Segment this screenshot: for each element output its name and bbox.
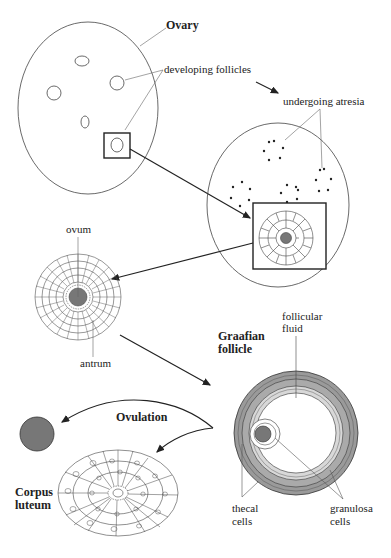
antral-follicle: [35, 237, 121, 357]
label-ovum: ovum: [66, 223, 92, 235]
primary-follicle: [259, 211, 313, 265]
graafian-ovum: [255, 426, 271, 442]
ovary-outline: [18, 22, 158, 194]
selected-follicle-box: [104, 133, 130, 158]
label-follicular-fluid-1: follicular: [282, 310, 323, 322]
label-corpus-2: luteum: [15, 498, 51, 512]
label-thecal-2: cells: [232, 515, 252, 527]
label-granulosa-1: granulosa: [330, 502, 373, 514]
arrow-to-antral-follicle: [112, 243, 253, 279]
label-thecal-1: thecal: [232, 502, 258, 514]
label-ovulation: Ovulation: [116, 410, 168, 424]
cumulus: [250, 419, 280, 449]
follicle-small-1: [75, 56, 89, 66]
label-corpus-1: Corpus: [15, 485, 53, 499]
arrow-to-corpus-luteum: [157, 428, 213, 452]
released-ovum: [20, 417, 54, 451]
label-graafian-2: follicle: [218, 342, 253, 356]
label-developing-follicles: developing follicles: [164, 63, 251, 75]
arrow-box-to-ovary2: [130, 149, 250, 218]
ovary-group: Ovary developing follicles: [18, 18, 251, 194]
arrow-to-graafian: [120, 335, 210, 385]
graafian-follicle: [234, 336, 358, 495]
follicle-small-2: [47, 86, 61, 100]
label-follicular-fluid-2: fluid: [282, 322, 303, 334]
primary-ovum: [281, 233, 292, 244]
label-ovary: Ovary: [166, 18, 199, 32]
label-antrum: antrum: [80, 357, 112, 369]
label-granulosa-2: cells: [330, 515, 350, 527]
corpus-luteum: [58, 450, 178, 536]
label-graafian-1: Graafian: [218, 329, 265, 343]
follicle-diagram: Ovary developing follicles undergoing at…: [0, 0, 391, 558]
ovary-atresia-group: undergoing atresia: [207, 95, 364, 287]
selected-follicle: [111, 138, 123, 152]
label-undergoing-atresia: undergoing atresia: [283, 95, 364, 107]
follicle-small-4: [81, 116, 89, 128]
follicle-small-3: [110, 76, 124, 90]
arrow-to-atresia: [256, 82, 278, 93]
atretic-dots: [230, 140, 332, 207]
